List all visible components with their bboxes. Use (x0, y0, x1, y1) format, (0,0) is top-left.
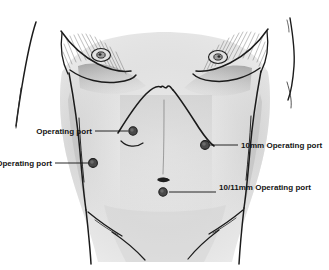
port-marker-10-11mm-umbilical[interactable] (159, 188, 167, 196)
port-placement-figure: Operating port Operating port 10mm Opera… (0, 0, 329, 270)
label-port-upper-left: Operating port (36, 127, 92, 136)
left-nipple (92, 49, 111, 62)
anatomical-illustration: Operating port Operating port 10mm Opera… (0, 0, 329, 270)
port-marker-upper-left[interactable] (129, 127, 137, 135)
port-marker-lower-left[interactable] (89, 159, 98, 168)
right-nipple (209, 51, 228, 64)
port-marker-10mm-right[interactable] (201, 141, 210, 150)
label-port-10mm-right: 10mm Operating port (241, 141, 323, 150)
label-port-lower-left: Operating port (0, 159, 52, 168)
label-port-10-11mm-umbilical: 10/11mm Operating port (219, 183, 311, 192)
